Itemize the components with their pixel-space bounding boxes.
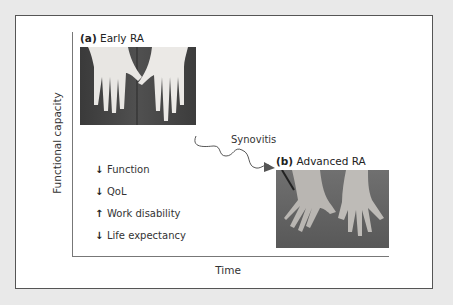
- outcome-label: Life expectancy: [107, 230, 186, 241]
- outcome-item: ↓ Life expectancy: [95, 224, 186, 246]
- outcome-label: QoL: [107, 186, 127, 197]
- outcome-label: Function: [107, 164, 150, 175]
- outcome-item: ↑ Work disability: [95, 202, 186, 224]
- outcome-label: Work disability: [107, 208, 181, 219]
- outcome-item: ↓ Function: [95, 158, 186, 180]
- outcome-item: ↓ QoL: [95, 180, 186, 202]
- arrow-down-icon: ↓: [95, 230, 107, 241]
- outcomes-list: ↓ Function ↓ QoL ↑ Work disability ↓ Lif…: [95, 158, 186, 246]
- arrow-up-icon: ↑: [95, 208, 107, 219]
- arrow-down-icon: ↓: [95, 186, 107, 197]
- arrow-down-icon: ↓: [95, 164, 107, 175]
- synovitis-wavy-arrow: [0, 0, 453, 305]
